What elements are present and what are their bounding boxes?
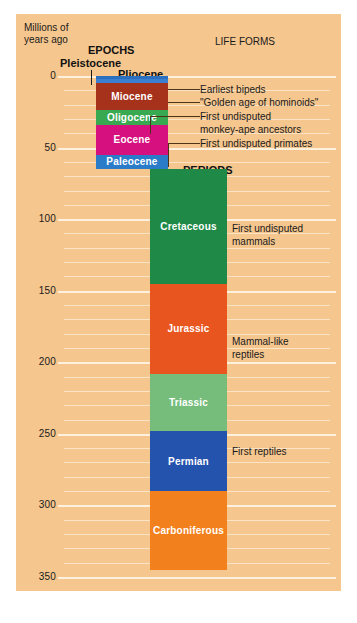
leader-line bbox=[150, 116, 151, 134]
band-label: Cretaceous bbox=[160, 221, 216, 232]
band-paleocene: Paleocene bbox=[96, 155, 168, 169]
axis-tick-300: 300 bbox=[16, 499, 56, 510]
axis-tick-150: 150 bbox=[16, 285, 56, 296]
annotation-6: First reptiles bbox=[232, 446, 286, 459]
band-eocene: Eocene bbox=[96, 125, 168, 155]
pleistocene-callout-tick bbox=[91, 70, 92, 85]
band-miocene: Miocene bbox=[96, 83, 168, 110]
annotation-5: Mammal-like reptiles bbox=[232, 336, 289, 361]
axis-tick-50: 50 bbox=[16, 142, 56, 153]
life-forms-header: LIFE FORMS bbox=[215, 36, 275, 48]
annotation-0: Earliest bipeds bbox=[200, 84, 266, 97]
axis-tick-350: 350 bbox=[16, 571, 56, 582]
axis-tick-200: 200 bbox=[16, 356, 56, 367]
band-oligocene: Oligocene bbox=[96, 110, 168, 124]
pleistocene-callout-label: Pleistocene bbox=[60, 57, 121, 69]
band-label: Jurassic bbox=[167, 323, 209, 334]
band-carboniferous: Carboniferous bbox=[150, 491, 227, 570]
annotation-4: First undisputed mammals bbox=[232, 223, 303, 248]
gridline-major bbox=[58, 577, 336, 579]
band-permian: Permian bbox=[150, 431, 227, 491]
leader-line bbox=[168, 143, 200, 144]
band-label: Paleocene bbox=[106, 156, 157, 167]
band-label: Eocene bbox=[114, 134, 151, 145]
band-triassic: Triassic bbox=[150, 374, 227, 431]
band-cretaceous: Cretaceous bbox=[150, 169, 227, 284]
band-label: Miocene bbox=[111, 91, 152, 102]
band-label: Carboniferous bbox=[153, 525, 224, 536]
axis-tick-0: 0 bbox=[16, 70, 56, 81]
axis-tick-100: 100 bbox=[16, 213, 56, 224]
annotation-2: First undisputed monkey-ape ancestors bbox=[200, 111, 301, 136]
axis-tick-250: 250 bbox=[16, 428, 56, 439]
leader-line bbox=[150, 116, 200, 117]
band-label: Permian bbox=[168, 456, 209, 467]
leader-line bbox=[168, 102, 200, 103]
y-axis-title: Millions of years ago bbox=[24, 22, 68, 46]
figure-root: 050100150200250300350 Millions of years … bbox=[0, 0, 357, 623]
epochs-header: EPOCHS bbox=[88, 44, 134, 56]
band-jurassic: Jurassic bbox=[150, 284, 227, 374]
annotation-3: First undisputed primates bbox=[200, 138, 312, 151]
band-label: Triassic bbox=[169, 397, 208, 408]
annotation-1: "Golden age of hominoids" bbox=[200, 97, 318, 110]
leader-line bbox=[168, 143, 169, 167]
leader-line bbox=[168, 89, 200, 90]
chart-panel: 050100150200250300350 Millions of years … bbox=[16, 14, 341, 591]
